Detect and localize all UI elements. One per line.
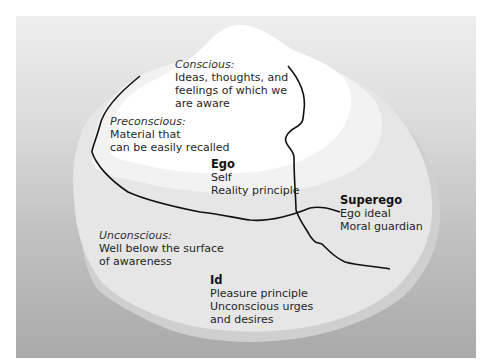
superego-text-line: Moral guardian — [340, 220, 423, 233]
superego-label: Superego Ego ideal Moral guardian — [340, 194, 423, 233]
id-text-line: Pleasure principle — [210, 287, 313, 300]
conscious-label: Conscious: Ideas, thoughts, and feelings… — [175, 58, 288, 110]
id-text-line: and desires — [210, 313, 313, 326]
preconscious-text-line: Material that — [110, 128, 230, 141]
conscious-text-line: Ideas, thoughts, and — [175, 71, 288, 84]
unconscious-label: Unconscious: Well below the surface of a… — [99, 229, 224, 268]
superego-title: Superego — [340, 194, 423, 207]
unconscious-title: Unconscious: — [99, 229, 224, 242]
id-label: Id Pleasure principle Unconscious urges … — [210, 274, 313, 326]
conscious-text-line: feelings of which we — [175, 84, 288, 97]
ego-title: Ego — [211, 158, 300, 171]
ego-text-line: Self — [211, 171, 300, 184]
preconscious-title: Preconscious: — [110, 115, 230, 128]
unconscious-text-line: of awareness — [99, 255, 224, 268]
ego-text-line: Reality principle — [211, 184, 300, 197]
preconscious-text-line: can be easily recalled — [110, 141, 230, 154]
preconscious-label: Preconscious: Material that can be easil… — [110, 115, 230, 154]
id-title: Id — [210, 274, 313, 287]
conscious-text-line: are aware — [175, 97, 288, 110]
conscious-title: Conscious: — [175, 58, 288, 71]
superego-text-line: Ego ideal — [340, 207, 423, 220]
unconscious-text-line: Well below the surface — [99, 242, 224, 255]
ego-label: Ego Self Reality principle — [211, 158, 300, 197]
id-text-line: Unconscious urges — [210, 300, 313, 313]
